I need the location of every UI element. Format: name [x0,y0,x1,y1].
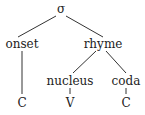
leaf-coda-c: C [121,97,130,109]
node-onset: onset [5,38,38,50]
node-rhyme: rhyme [84,38,123,50]
node-nucleus: nucleus [46,75,93,87]
edge-root-rhyme [66,16,103,37]
edge-root-onset [18,16,56,37]
node-coda: coda [112,75,141,87]
syllable-tree-diagram: σ onset rhyme nucleus coda C V C [0,0,145,115]
node-root-sigma: σ [57,3,65,15]
leaf-nucleus-v: V [66,97,75,109]
leaf-onset-c: C [17,97,26,109]
edge-rhyme-nucleus [73,51,96,73]
edge-rhyme-coda [106,51,126,73]
